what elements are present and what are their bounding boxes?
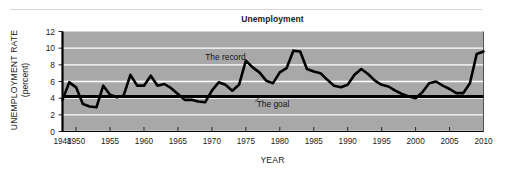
- unemployment-chart-figure: Unemployment UNEMPLOYMENT RATE (percent)…: [0, 0, 512, 193]
- goal-annotation-label: The goal: [257, 99, 290, 109]
- record-annotation-label: The record: [205, 52, 246, 62]
- plot-area-svg: The record The goal: [0, 0, 512, 193]
